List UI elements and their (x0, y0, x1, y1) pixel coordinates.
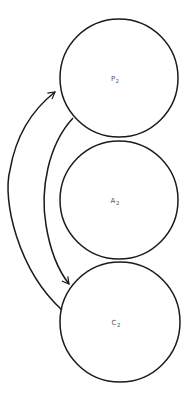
arrow-c2-to-p2 (8, 92, 62, 310)
node-a2: A2 (60, 141, 178, 259)
cycle-diagram: P2 A2 C2 (0, 0, 190, 398)
node-p2-label: P2 (111, 75, 119, 84)
node-p2: P2 (60, 19, 178, 137)
node-a2-label: A2 (111, 197, 120, 206)
node-c2: C2 (60, 262, 180, 382)
node-c2-label: C2 (112, 319, 121, 328)
arrow-p2-to-c2 (44, 118, 73, 284)
